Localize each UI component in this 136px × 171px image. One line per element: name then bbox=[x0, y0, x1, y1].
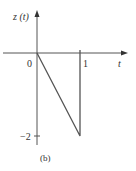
signal-plot: z (t) 0 1 t −2 (b) bbox=[0, 0, 136, 171]
y-tick-label-minus-2: −2 bbox=[20, 131, 31, 142]
figure-caption: (b) bbox=[40, 153, 51, 163]
x-axis-arrow-icon bbox=[121, 51, 128, 56]
x-tick-label-1: 1 bbox=[83, 58, 88, 69]
signal-curve bbox=[37, 50, 80, 136]
y-axis-arrow-icon bbox=[35, 10, 40, 17]
x-axis-label: t bbox=[118, 58, 121, 69]
y-axis-label: z (t) bbox=[12, 11, 30, 23]
origin-label: 0 bbox=[27, 58, 32, 69]
